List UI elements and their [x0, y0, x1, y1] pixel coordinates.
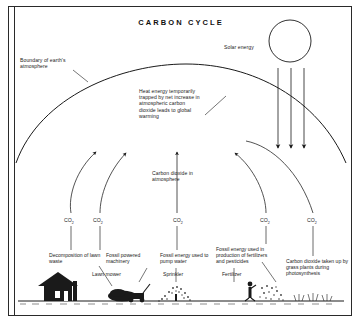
lawn-mower-icon	[128, 284, 150, 302]
source-label-photosynthesis: Carbon dioxide taken up by grass plants …	[286, 258, 352, 277]
co2-label-pump-water: CO2	[173, 217, 183, 225]
icon-label-fertilizer: Fertilizer	[222, 271, 242, 277]
fertilizer-spreader-icon	[245, 282, 284, 301]
icon-label-lawn-mower: Lawn mower	[92, 271, 121, 277]
solar-ray-arrow-icon	[278, 68, 304, 148]
co2-label-fertilizer: CO2	[260, 217, 270, 225]
icon-label-sprinkler: Sprinkler	[163, 271, 183, 277]
source-label-fossil-machinery: Fossil powered machinery	[106, 252, 158, 264]
source-label-fertilizer-production: Fossil energy used in production of fert…	[216, 246, 274, 265]
house-icon	[38, 272, 78, 301]
source-label-decomposition: Decomposition of lawn waste	[49, 252, 101, 264]
co2-label-machinery: CO2	[93, 217, 103, 225]
source-label-pump-water: Fossil energy used to pump water	[160, 252, 212, 264]
co2-label-photosynthesis: CO2	[307, 217, 317, 225]
carbon-cycle-diagram: CARBON CYCLE	[0, 0, 362, 323]
grass-icon	[294, 293, 332, 301]
atmosphere-pool-label: Carbon dioxide in atmosphere	[152, 170, 212, 182]
co2-label-decomposition: CO2	[64, 217, 74, 225]
boundary-label: Boundary of earth's atmosphere	[20, 57, 90, 69]
heat-leader-line	[205, 96, 226, 115]
heat-trapped-label: Heat energy temporarily trapped by net i…	[139, 88, 201, 119]
solar-energy-label: Solar energy	[224, 44, 284, 50]
sprinkler-icon	[158, 286, 191, 302]
boundary-leader-line	[73, 70, 88, 82]
sun-icon	[269, 20, 311, 62]
